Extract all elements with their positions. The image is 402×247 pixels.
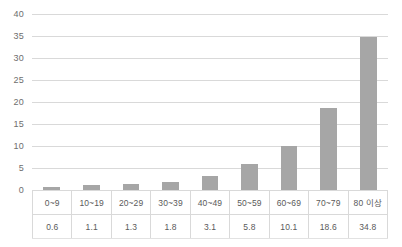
table-cell-category: 0~9 — [33, 191, 72, 215]
table-cell-value: 34.8 — [348, 215, 388, 239]
y-tick-label-10: 10 — [14, 142, 24, 151]
table-cell-category: 50~59 — [230, 191, 269, 215]
data-table: 0~910~1920~2930~3940~4950~5960~6970~7980… — [32, 190, 388, 239]
table-cell-value: 18.6 — [309, 215, 348, 239]
bar-slot — [230, 14, 270, 190]
bar-slot — [32, 14, 72, 190]
y-tick-label-0: 0 — [19, 186, 24, 195]
y-tick-label-30: 30 — [14, 54, 24, 63]
bar-slot — [349, 14, 389, 190]
table-cell-category: 80 이상 — [348, 191, 388, 215]
bar-40~49[interactable] — [202, 176, 219, 190]
y-tick-label-5: 5 — [19, 164, 24, 173]
y-tick-label-25: 25 — [14, 76, 24, 85]
table-cell-category: 10~19 — [72, 191, 111, 215]
bar-slot — [309, 14, 349, 190]
y-tick-label-20: 20 — [14, 98, 24, 107]
bar-80 이상[interactable] — [360, 37, 377, 190]
table-cell-value: 1.3 — [111, 215, 150, 239]
table-cell-category: 20~29 — [111, 191, 150, 215]
table-cell-value: 1.8 — [151, 215, 190, 239]
bar-30~39[interactable] — [162, 182, 179, 190]
table-row-categories: 0~910~1920~2930~3940~4950~5960~6970~7980… — [33, 191, 388, 215]
table-cell-value: 10.1 — [269, 215, 308, 239]
table-cell-value: 1.1 — [72, 215, 111, 239]
bar-slot — [190, 14, 230, 190]
y-tick-label-40: 40 — [14, 10, 24, 19]
table-cell-value: 0.6 — [33, 215, 72, 239]
bar-slot — [111, 14, 151, 190]
table-cell-category: 30~39 — [151, 191, 190, 215]
table-cell-category: 60~69 — [269, 191, 308, 215]
y-tick-label-15: 15 — [14, 120, 24, 129]
y-axis: 0510152025303540 — [0, 14, 30, 190]
y-tick-label-35: 35 — [14, 32, 24, 41]
table-row-values: 0.61.11.31.83.15.810.118.634.8 — [33, 215, 388, 239]
bar-70~79[interactable] — [320, 108, 337, 190]
bars-layer — [32, 14, 388, 190]
bar-60~69[interactable] — [281, 146, 298, 190]
table-cell-value: 5.8 — [230, 215, 269, 239]
bar-50~59[interactable] — [241, 164, 258, 190]
table-cell-category: 40~49 — [190, 191, 229, 215]
bar-chart: 0510152025303540 0~910~1920~2930~3940~49… — [0, 0, 402, 247]
table-cell-value: 3.1 — [190, 215, 229, 239]
table-cell-category: 70~79 — [309, 191, 348, 215]
bar-slot — [72, 14, 112, 190]
bar-slot — [151, 14, 191, 190]
bar-slot — [269, 14, 309, 190]
